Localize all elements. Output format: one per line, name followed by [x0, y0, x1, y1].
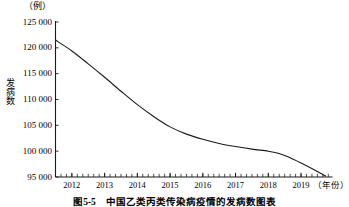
chart-axes [56, 21, 333, 177]
data-series-line [56, 40, 326, 176]
figure-container: （例） 发病数 125 000120 000115 000110 000105 … [0, 0, 349, 207]
chart-tick-marks [56, 22, 329, 177]
chart-plot [0, 0, 349, 207]
figure-caption: 图5-5 中国乙类丙类传染病疫情的发病数图表 [0, 197, 349, 207]
